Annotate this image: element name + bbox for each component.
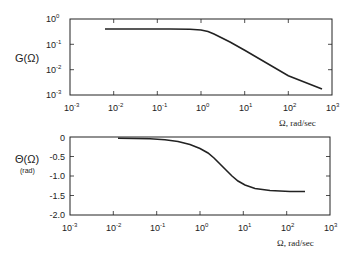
svg-text:101: 101 — [238, 222, 252, 233]
svg-text:-2.0: -2.0 — [49, 210, 65, 220]
phase-ticks — [70, 157, 330, 216]
svg-text:10-2: 10-2 — [106, 222, 122, 233]
phase-x-axis-label: Ω, rad/sec — [277, 238, 314, 248]
svg-text:102: 102 — [281, 222, 295, 233]
svg-text:10-1: 10-1 — [150, 222, 166, 233]
svg-text:102: 102 — [283, 102, 297, 113]
phase-curve — [118, 138, 305, 191]
svg-text:10-2: 10-2 — [46, 64, 62, 75]
svg-text:103: 103 — [324, 222, 338, 233]
magnitude-y-tick-labels: 100 10-1 10-2 10-3 — [46, 13, 62, 100]
magnitude-curve — [105, 29, 322, 89]
phase-plot: 0 -0.5 -1.0 -1.5 -2.0 10-3 10-2 10-1 100… — [15, 133, 338, 248]
svg-text:103: 103 — [326, 102, 340, 113]
phase-y-axis-unit: (rad) — [20, 167, 35, 175]
svg-text:10-2: 10-2 — [108, 102, 124, 113]
bode-plot-figure: 100 10-1 10-2 10-3 10-3 10-2 10-1 100 10… — [0, 0, 355, 259]
svg-text:10-3: 10-3 — [62, 222, 78, 233]
phase-y-axis-label: Θ(Ω) — [15, 153, 39, 165]
magnitude-plot: 100 10-1 10-2 10-3 10-3 10-2 10-1 100 10… — [15, 13, 340, 128]
svg-text:-1.0: -1.0 — [49, 171, 65, 181]
svg-text:0: 0 — [60, 133, 65, 143]
svg-text:100: 100 — [46, 13, 60, 24]
svg-text:-0.5: -0.5 — [49, 152, 65, 162]
svg-text:10-1: 10-1 — [152, 102, 168, 113]
svg-text:10-3: 10-3 — [64, 102, 80, 113]
magnitude-x-axis-label: Ω, rad/sec — [279, 118, 316, 128]
magnitude-x-tick-labels: 10-3 10-2 10-1 100 101 102 103 — [64, 102, 340, 113]
svg-text:101: 101 — [239, 102, 253, 113]
phase-x-tick-labels: 10-3 10-2 10-1 100 101 102 103 — [62, 222, 338, 233]
magnitude-y-axis-label: G(Ω) — [15, 52, 39, 64]
svg-text:100: 100 — [195, 222, 209, 233]
phase-y-tick-labels: 0 -0.5 -1.0 -1.5 -2.0 — [49, 133, 65, 220]
svg-text:10-3: 10-3 — [46, 89, 62, 100]
svg-text:100: 100 — [196, 102, 210, 113]
svg-text:10-1: 10-1 — [46, 39, 62, 50]
svg-text:-1.5: -1.5 — [49, 191, 65, 201]
